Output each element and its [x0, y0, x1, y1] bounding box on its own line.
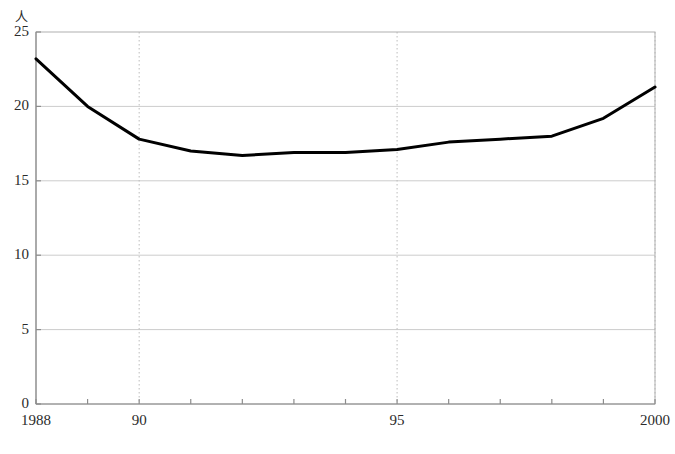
grid-vertical-group	[139, 32, 655, 404]
grid-horizontal-group	[36, 106, 655, 329]
y-tick-label: 25	[14, 24, 29, 39]
x-tick-label: 2000	[615, 413, 675, 428]
y-tick-label: 15	[14, 173, 29, 188]
plot-frame	[36, 32, 655, 404]
x-tick-label: 90	[99, 413, 179, 428]
y-tick-label: 0	[22, 396, 30, 411]
series-line	[36, 59, 655, 156]
y-tick-label: 20	[14, 98, 29, 113]
y-tick-label: 10	[14, 247, 29, 262]
x-tick-label: 1988	[0, 413, 76, 428]
axis-frame-group	[36, 32, 655, 404]
y-axis-unit-label: 人	[15, 10, 28, 23]
data-series-line	[36, 59, 655, 156]
axis-ticks-group	[36, 32, 655, 404]
x-tick-label: 95	[357, 413, 437, 428]
y-tick-label: 5	[22, 322, 30, 337]
